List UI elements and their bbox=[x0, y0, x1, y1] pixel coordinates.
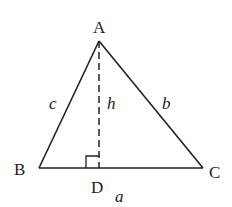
right-angle-marker bbox=[86, 156, 99, 168]
triangle-diagram: A B C D c b a h bbox=[0, 0, 232, 207]
vertex-label-c: C bbox=[209, 163, 220, 182]
vertex-label-b: B bbox=[14, 160, 25, 179]
vertex-label-d: D bbox=[91, 178, 103, 197]
side-label-a: a bbox=[115, 187, 124, 206]
side-label-b: b bbox=[162, 94, 171, 113]
altitude-label-h: h bbox=[107, 94, 116, 113]
side-label-c: c bbox=[49, 94, 57, 113]
vertex-label-a: A bbox=[93, 18, 106, 37]
side-c bbox=[39, 41, 99, 168]
